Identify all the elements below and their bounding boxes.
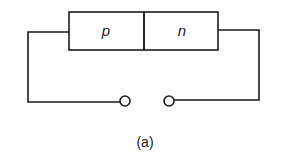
figure-caption: (a) [136,134,153,150]
right-terminal-icon [164,96,174,106]
left-wire [28,32,120,102]
right-wire [174,30,259,100]
left-terminal-icon [120,96,130,106]
pn-junction-diagram: p n (a) [0,0,282,156]
p-region-label: p [101,22,110,39]
n-region-label: n [178,22,186,39]
